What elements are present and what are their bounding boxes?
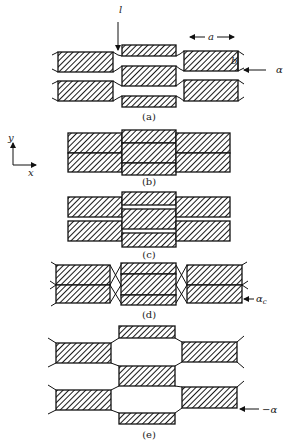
grain-boundary-line [242,262,247,265]
crystal-block [121,263,176,274]
crystal-block [121,274,176,295]
crystal-block [176,221,230,241]
crystal-block [122,209,176,229]
y-axis-label: y [7,132,14,143]
crystal-block [122,66,176,86]
alpha-c-label: αc [256,293,267,306]
grain-boundary-line [238,68,244,71]
crystal-block [122,130,176,143]
crystal-block [122,143,176,163]
crystal-block [68,153,122,172]
grain-boundary-line [48,363,56,367]
grain-boundary-line [175,408,182,413]
crystal-block [68,133,122,153]
crystal-block [122,45,176,56]
grain-boundary-line [113,52,122,56]
grain-boundary-line [175,338,182,342]
crystal-block [184,51,238,71]
grain-boundary-line [52,52,58,55]
grain-boundary-line [176,80,184,86]
crystal-block [119,326,175,338]
alpha-label: α [276,64,283,75]
grain-boundary-line [176,96,184,101]
crystal-block [58,52,113,72]
panel-e: (e)−α [48,326,277,440]
crystal-block [176,197,230,217]
panel-caption: (a) [142,111,156,122]
crystal-block [176,153,230,172]
grain-boundary-line [237,381,244,387]
grain-boundary-line [237,336,244,342]
crystal-block [56,285,110,303]
panel-b: (b) [68,130,230,187]
panel-d: (d)αc [50,262,267,320]
grain-boundary-line [175,362,182,366]
grain-boundary-line [50,285,56,289]
crystal-block [176,133,230,153]
crystal-block [58,81,113,101]
crystal-block [187,265,242,285]
crystal-block [184,80,238,101]
crystal-block [122,96,176,107]
grain-boundary-line [238,80,244,84]
crystal-block [182,387,237,408]
panels: (a)labα(b)(c)(d)αc(e)−α [48,4,283,440]
crystal-block [182,342,237,362]
grain-boundary-line [51,262,56,265]
grain-boundary-line [50,281,56,285]
crystal-deformation-figure: y x (a)labα(b)(c)(d)αc(e)−α [0,0,290,444]
crystal-block [187,285,242,303]
grain-boundary-line [52,98,58,101]
crystal-block [122,163,176,175]
panel-a: (a)labα [52,4,283,122]
crystal-block [56,343,111,363]
panel-caption: (c) [142,249,156,260]
grain-boundary-line [176,51,184,56]
grain-boundary-line [51,303,56,306]
crystal-block [119,413,175,424]
crystal-block [119,366,175,386]
diagram-canvas: y x (a)labα(b)(c)(d)αc(e)−α [0,0,290,444]
grain-boundary-line [48,338,56,343]
grain-boundary-line [238,51,244,55]
x-axis-label: x [28,167,34,178]
l-label: l [119,4,122,15]
grain-boundary-line [111,386,119,390]
grain-boundary-line [111,410,119,413]
grain-boundary-line [176,66,184,71]
grain-boundary-line [48,410,56,414]
grain-boundary-line [111,363,119,366]
panel-caption: (d) [142,309,156,320]
b-dimension-label: b [231,55,237,66]
crystal-block [122,233,176,247]
crystal-block [122,192,176,205]
grain-boundary-line [113,81,122,86]
grain-boundary-line [238,97,244,101]
panel-c: (c) [68,192,230,260]
grain-boundary-line [52,69,58,72]
panel-caption: (e) [142,429,156,440]
grain-boundary-line [175,386,182,387]
crystal-block [68,221,122,241]
grain-boundary-line [48,385,56,390]
crystal-block [68,197,122,217]
a-dimension-label: a [208,31,214,42]
grain-boundary-line [242,285,248,289]
grain-boundary-line [237,362,244,368]
grain-boundary-line [242,281,248,285]
coordinate-axes: y x [7,132,36,178]
grain-boundary-line [113,66,122,72]
crystal-block [121,295,176,305]
crystal-block [56,390,111,410]
grain-boundary-line [52,81,58,84]
grain-boundary-line [113,96,122,101]
crystal-block [56,265,110,285]
panel-caption: (b) [142,176,156,187]
negative-alpha-label: −α [262,404,277,415]
grain-boundary-line [111,338,119,343]
